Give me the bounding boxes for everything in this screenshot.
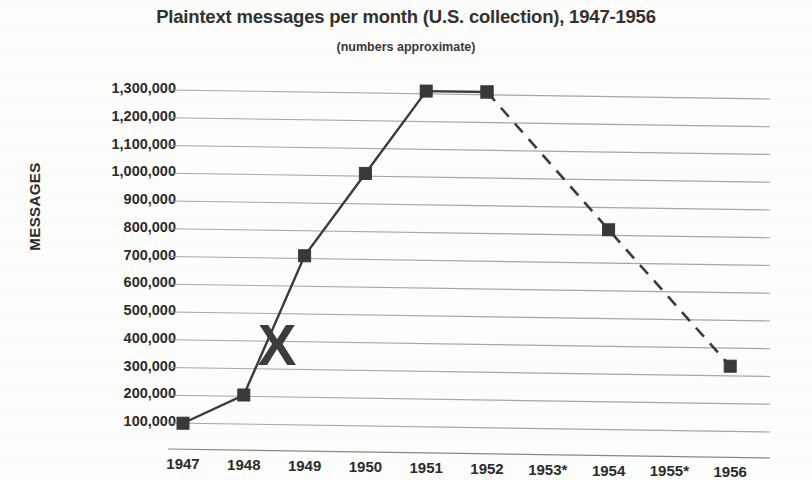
data-point-marker [603, 224, 615, 236]
gridline [168, 173, 770, 182]
x-tick-label: 1953* [513, 461, 583, 478]
gridlines [168, 90, 770, 432]
x-tick-label: 1952 [452, 460, 522, 477]
data-series-layer [177, 85, 736, 429]
chart-page: Plaintext messages per month (U.S. colle… [0, 0, 812, 480]
annotation-layer: X [258, 312, 297, 377]
x-annotation-mark: X [258, 312, 297, 377]
x-tick-label: 1954 [574, 462, 644, 479]
data-point-marker [299, 250, 311, 262]
gridline [168, 229, 770, 238]
gridline [168, 201, 770, 210]
x-tick-label: 1950 [330, 458, 400, 475]
gridline [168, 146, 770, 155]
x-tick-label: 1949 [270, 457, 340, 474]
x-tick-label: 1951 [391, 459, 461, 476]
x-tick-label: 1947 [148, 455, 218, 472]
gridline [168, 118, 770, 127]
data-point-marker [359, 167, 371, 179]
data-point-marker [481, 86, 493, 98]
data-point-marker [177, 417, 189, 429]
data-point-marker [238, 389, 250, 401]
gridline [168, 284, 770, 293]
x-tick-label: 1948 [209, 456, 279, 473]
data-point-marker [724, 360, 736, 372]
x-tick-label: 1955* [634, 462, 704, 479]
plot-area: X [0, 0, 812, 480]
gridline [168, 257, 770, 266]
gridline [168, 395, 770, 404]
data-point-marker [420, 85, 432, 97]
x-tick-label: 1956 [695, 463, 765, 480]
gridline [168, 423, 770, 432]
